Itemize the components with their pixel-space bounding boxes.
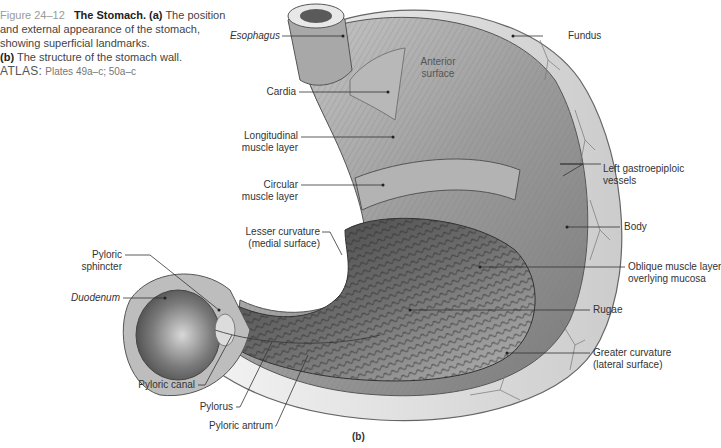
label-circular-line1: Circular <box>210 179 298 191</box>
subfigure-label: (b) <box>352 431 365 442</box>
label-pyloric-canal: Pyloric canal <box>100 379 195 391</box>
label-rugae: Rugae <box>593 304 622 316</box>
label-fundus: Fundus <box>568 30 601 42</box>
label-cardia: Cardia <box>240 86 296 98</box>
label-oblique-muscle-layer: Oblique muscle layer overlying mucosa <box>628 261 721 285</box>
label-longitudinal-line1: Longitudinal <box>210 130 298 142</box>
label-circular-muscle-layer: Circular muscle layer <box>210 179 298 203</box>
label-oblique-line1: Oblique muscle layer <box>628 261 721 273</box>
label-pylorus: Pylorus <box>140 401 233 413</box>
label-anterior-surface-line2: surface <box>408 68 468 80</box>
label-pyloric-sphincter-line1: Pyloric <box>70 249 122 261</box>
label-lesser-curvature-line2: (medial surface) <box>220 238 320 250</box>
label-esophagus: Esophagus <box>222 30 280 42</box>
label-anterior-surface-line1: Anterior <box>408 56 468 68</box>
label-left-gastroepiploic-line1: Left gastroepiploic <box>603 163 684 175</box>
label-greater-curvature-line2: (lateral surface) <box>593 359 671 371</box>
label-greater-curvature: Greater curvature (lateral surface) <box>593 347 671 371</box>
label-pyloric-antrum: Pyloric antrum <box>140 420 273 432</box>
label-pyloric-sphincter-line2: sphincter <box>70 261 122 273</box>
label-longitudinal-line2: muscle layer <box>210 142 298 154</box>
label-longitudinal-muscle-layer: Longitudinal muscle layer <box>210 130 298 154</box>
label-anterior-surface: Anterior surface <box>408 56 468 80</box>
label-lesser-curvature: Lesser curvature (medial surface) <box>220 226 320 250</box>
label-body: Body <box>624 221 647 233</box>
label-oblique-line2: overlying mucosa <box>628 273 721 285</box>
label-duodenum: Duodenum <box>60 292 120 304</box>
label-lesser-curvature-line1: Lesser curvature <box>220 226 320 238</box>
label-left-gastroepiploic-line2: vessels <box>603 175 684 187</box>
label-greater-curvature-line1: Greater curvature <box>593 347 671 359</box>
label-pyloric-sphincter: Pyloric sphincter <box>70 249 122 273</box>
label-circular-line2: muscle layer <box>210 191 298 203</box>
label-left-gastroepiploic-vessels: Left gastroepiploic vessels <box>603 163 684 187</box>
